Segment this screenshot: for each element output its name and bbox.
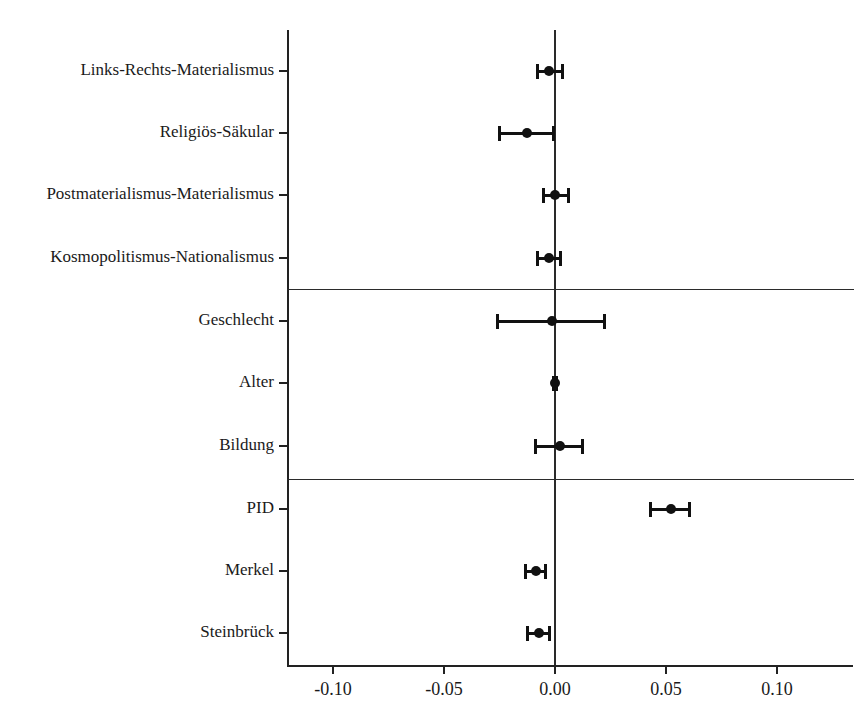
y-axis-label-text: Postmaterialismus-Materialismus	[46, 185, 274, 203]
group-separator	[287, 289, 854, 291]
x-axis-tick-label: 0.05	[626, 678, 706, 700]
x-axis-tick	[332, 665, 334, 674]
ci-upper-cap	[552, 126, 555, 141]
x-axis-spine	[287, 665, 853, 667]
point-estimate-marker	[544, 66, 554, 76]
y-axis-label-text: Kosmopolitismus-Nationalismus	[50, 248, 274, 266]
y-axis-label: Merkel	[0, 561, 274, 579]
point-estimate-marker	[531, 566, 541, 576]
ci-lower-cap	[526, 626, 529, 641]
y-axis-tick	[279, 194, 288, 196]
y-axis-tick	[279, 508, 288, 510]
y-axis-tick	[279, 132, 288, 134]
x-axis-tick-label: 0.10	[737, 678, 817, 700]
point-estimate-marker	[534, 628, 544, 638]
y-axis-tick	[279, 70, 288, 72]
y-axis-tick	[279, 320, 288, 322]
ci-upper-cap	[559, 251, 562, 266]
y-axis-label-text: Steinbrück	[200, 623, 274, 641]
ci-upper-cap	[561, 64, 564, 79]
ci-upper-cap	[603, 314, 606, 329]
point-estimate-marker	[550, 190, 560, 200]
y-axis-label: PID	[0, 499, 274, 517]
ci-upper-cap	[544, 564, 547, 579]
y-axis-label-text: PID	[247, 499, 274, 517]
y-axis-label: Steinbrück	[0, 623, 274, 641]
coefficient-plot-figure: Links-Rechts-MaterialismusReligiös-Säkul…	[0, 0, 854, 728]
ci-lower-cap	[498, 126, 501, 141]
x-axis-tick	[776, 665, 778, 674]
y-axis-label-text: Links-Rechts-Materialismus	[80, 61, 274, 79]
y-axis-label: Geschlecht	[0, 311, 274, 329]
ci-lower-cap	[536, 64, 539, 79]
y-axis-tick	[279, 570, 288, 572]
y-axis-label: Links-Rechts-Materialismus	[0, 61, 274, 79]
y-axis-label: Alter	[0, 373, 274, 391]
x-axis-tick	[554, 665, 556, 674]
point-estimate-marker	[666, 504, 676, 514]
y-axis-label: Religiös-Säkular	[0, 123, 274, 141]
y-axis-label-text: Geschlecht	[198, 311, 274, 329]
point-estimate-marker	[550, 378, 560, 388]
y-axis-tick	[279, 632, 288, 634]
ci-upper-cap	[688, 502, 691, 517]
ci-lower-cap	[536, 251, 539, 266]
ci-lower-cap	[649, 502, 652, 517]
ci-lower-cap	[542, 188, 545, 203]
y-axis-label-text: Religiös-Säkular	[160, 123, 274, 141]
x-axis-tick-label: -0.10	[293, 678, 373, 700]
y-axis-label-text: Alter	[239, 373, 274, 391]
y-axis-label: Kosmopolitismus-Nationalismus	[0, 248, 274, 266]
ci-lower-cap	[524, 564, 527, 579]
ci-upper-cap	[581, 439, 584, 454]
ci-lower-cap	[534, 439, 537, 454]
x-axis-tick	[665, 665, 667, 674]
y-axis-label: Postmaterialismus-Materialismus	[0, 185, 274, 203]
y-axis-tick	[279, 382, 288, 384]
y-axis-label-text: Bildung	[219, 436, 274, 454]
point-estimate-marker	[522, 128, 532, 138]
ci-lower-cap	[496, 314, 499, 329]
y-axis-tick	[279, 257, 288, 259]
y-axis-label: Bildung	[0, 436, 274, 454]
x-axis-tick-label: -0.05	[404, 678, 484, 700]
x-axis-tick	[443, 665, 445, 674]
x-axis-tick-label: 0.00	[515, 678, 595, 700]
point-estimate-marker	[547, 316, 557, 326]
group-separator	[287, 479, 854, 481]
ci-upper-cap	[548, 626, 551, 641]
point-estimate-marker	[555, 441, 565, 451]
y-axis-tick	[279, 445, 288, 447]
y-axis-label-text: Merkel	[225, 561, 274, 579]
point-estimate-marker	[544, 253, 554, 263]
ci-upper-cap	[567, 188, 570, 203]
